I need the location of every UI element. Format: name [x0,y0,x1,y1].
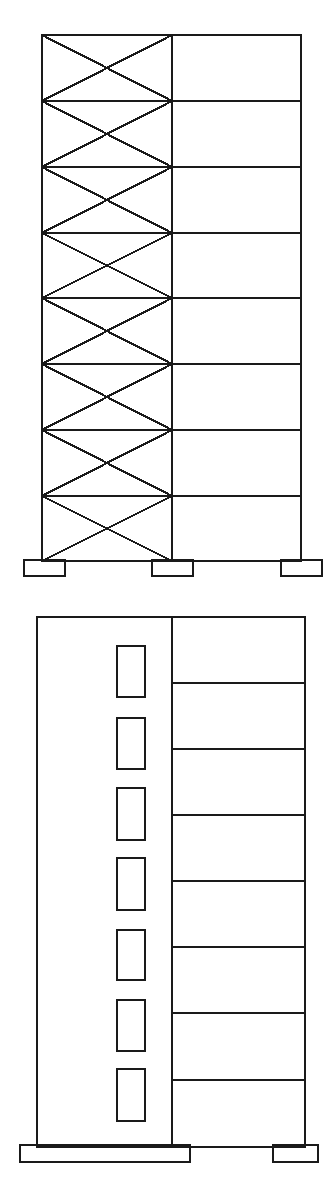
figure-canvas [0,0,333,1197]
structural-elevation-figure [0,0,333,1197]
figure-background [0,0,333,1197]
